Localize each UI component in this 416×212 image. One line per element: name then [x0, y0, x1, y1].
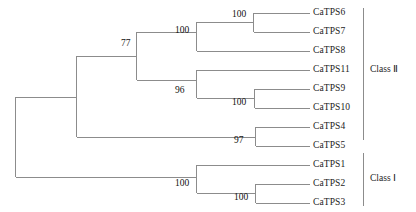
bootstrap-value-n100b: 100: [232, 10, 246, 20]
tip-label-catps4: CaTPS4: [313, 122, 345, 132]
bootstrap-value-n100c: 100: [232, 98, 246, 108]
tip-label-catps6: CaTPS6: [313, 8, 345, 18]
tip-label-catps1: CaTPS1: [313, 160, 345, 170]
tip-label-catps7: CaTPS7: [313, 27, 345, 37]
bootstrap-value-n97: 97: [234, 136, 244, 146]
tip-label-catps5: CaTPS5: [313, 141, 345, 151]
bootstrap-value-classI: 100: [175, 179, 189, 189]
class-label-ii: Class Ⅱ: [370, 65, 398, 75]
tip-label-catps10: CaTPS10: [313, 103, 350, 113]
tip-label-catps2: CaTPS2: [313, 179, 345, 189]
phylogenetic-tree-figure: CaTPS6 CaTPS7 CaTPS8 CaTPS11 CaTPS9 CaTP…: [0, 0, 416, 212]
bootstrap-value-n96: 96: [175, 86, 185, 96]
class-label-i: Class Ⅰ: [370, 174, 396, 184]
tip-label-catps11: CaTPS11: [313, 65, 350, 75]
tip-label-catps9: CaTPS9: [313, 84, 345, 94]
bootstrap-value-n77: 77: [121, 39, 131, 49]
tip-label-catps8: CaTPS8: [313, 46, 345, 56]
bootstrap-value-n100d: 100: [234, 193, 248, 203]
tree-branches: [0, 0, 416, 212]
figure-caption: [0, 206, 416, 212]
bootstrap-value-n100a: 100: [175, 26, 189, 36]
